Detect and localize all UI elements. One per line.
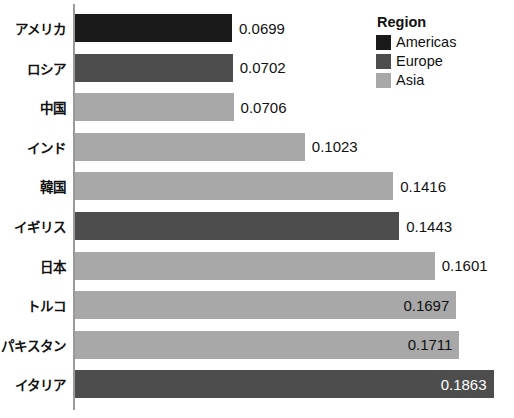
category-label: トルコ (0, 285, 66, 325)
category-label: アメリカ (0, 8, 66, 48)
bar (75, 172, 393, 200)
legend-label: Americas (396, 35, 456, 50)
bar-value-label: 0.0702 (240, 48, 286, 88)
bar-row: インド0.1023 (0, 127, 514, 167)
bar-value-label: 0.1416 (400, 166, 446, 206)
legend-swatch (376, 35, 391, 50)
bar-row: イタリア0.1863 (0, 364, 514, 404)
category-label: ロシア (0, 48, 66, 88)
bar (75, 252, 435, 280)
bar (75, 14, 232, 42)
bar (75, 212, 399, 240)
category-label: 韓国 (0, 166, 66, 206)
chart-legend: Region AmericasEuropeAsia (376, 14, 506, 90)
bar-row: 日本0.1601 (0, 246, 514, 286)
legend-label: Asia (396, 73, 424, 88)
category-label: イギリス (0, 206, 66, 246)
bar-value-label: 0.1443 (406, 206, 452, 246)
legend-item[interactable]: Asia (376, 71, 506, 90)
bar-value-label: 0.1711 (75, 331, 459, 359)
category-label: イタリア (0, 364, 66, 404)
bar-value-label: 0.1601 (442, 246, 488, 286)
bar (75, 54, 233, 82)
legend-item[interactable]: Americas (376, 33, 506, 52)
legend-title: Region (376, 14, 506, 30)
category-label: 中国 (0, 87, 66, 127)
bar-row: イギリス0.1443 (0, 206, 514, 246)
legend-label: Europe (396, 54, 443, 69)
category-label: パキスタン (0, 325, 66, 365)
legend-item[interactable]: Europe (376, 52, 506, 71)
bar-value-label: 0.0706 (241, 87, 287, 127)
bar-row: パキスタン0.1711 (0, 325, 514, 365)
bar-row: トルコ0.1697 (0, 285, 514, 325)
bar (75, 133, 305, 161)
legend-items: AmericasEuropeAsia (376, 33, 506, 90)
category-label: インド (0, 127, 66, 167)
bar-row: 韓国0.1416 (0, 166, 514, 206)
bar-chart: アメリカ0.0699ロシア0.0702中国0.0706インド0.1023韓国0.… (0, 0, 514, 418)
bar (75, 93, 234, 121)
bar-row: 中国0.0706 (0, 87, 514, 127)
bar-value-label: 0.1863 (75, 370, 494, 398)
bar-value-label: 0.0699 (239, 8, 285, 48)
bar-value-label: 0.1023 (312, 127, 358, 167)
legend-swatch (376, 54, 391, 69)
legend-swatch (376, 73, 391, 88)
bar-value-label: 0.1697 (75, 291, 456, 319)
category-label: 日本 (0, 246, 66, 286)
